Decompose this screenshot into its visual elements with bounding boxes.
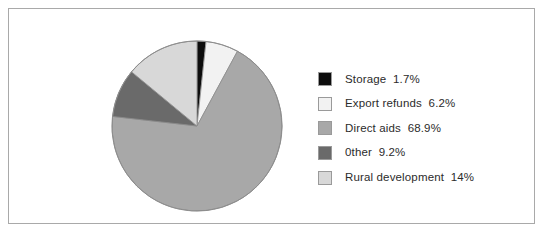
legend-item-label: Direct aids 68.9%	[345, 123, 441, 135]
legend-color-swatch	[318, 171, 332, 185]
legend-item: 0ther 9.2%	[318, 141, 538, 166]
legend-item-label: Rural development 14%	[345, 172, 474, 184]
legend-color-swatch	[318, 97, 332, 111]
legend-item: Export refunds 6.2%	[318, 92, 538, 117]
legend-item: Direct aids 68.9%	[318, 116, 538, 141]
legend-item: Rural development 14%	[318, 165, 538, 190]
legend-color-swatch	[318, 72, 332, 86]
chart-frame: Storage 1.7%Export refunds 6.2%Direct ai…	[8, 8, 535, 224]
chart-legend: Storage 1.7%Export refunds 6.2%Direct ai…	[318, 67, 538, 190]
legend-color-swatch	[318, 146, 332, 160]
legend-color-swatch	[318, 121, 332, 135]
legend-item: Storage 1.7%	[318, 67, 538, 92]
pie-chart	[111, 40, 283, 212]
pie-chart-svg	[111, 40, 283, 212]
screenshot-root: Storage 1.7%Export refunds 6.2%Direct ai…	[0, 0, 544, 233]
legend-item-label: Storage 1.7%	[345, 74, 420, 86]
pie-slice-group	[112, 41, 282, 211]
legend-item-label: Export refunds 6.2%	[345, 98, 455, 110]
legend-item-label: 0ther 9.2%	[345, 147, 405, 159]
